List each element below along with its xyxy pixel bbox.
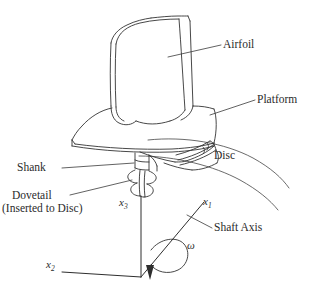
axis-label-x1: x1	[203, 195, 212, 210]
label-disc: Disc	[214, 149, 235, 162]
rotation-arrowhead	[146, 265, 154, 280]
axis-label-x2: x2	[46, 258, 55, 273]
label-shaft-axis: Shaft Axis	[214, 221, 262, 234]
coordinate-axes	[62, 196, 204, 277]
label-dovetail: Dovetail	[12, 189, 52, 202]
omega-symbol: ω	[187, 239, 195, 251]
rotation-arc	[146, 239, 188, 280]
shank	[135, 153, 157, 171]
disc-segment	[164, 141, 218, 170]
leader-dovetail	[70, 180, 132, 195]
platform	[72, 106, 216, 162]
turbine-blade-diagram: Airfoil Platform Shank Dovetail (Inserte…	[0, 0, 317, 289]
label-platform: Platform	[257, 93, 297, 106]
axis-label-x3: x3	[119, 196, 128, 211]
diagram-linework	[0, 0, 317, 289]
label-shank: Shank	[17, 161, 46, 174]
label-airfoil: Airfoil	[223, 38, 254, 51]
label-leaders	[62, 45, 255, 228]
label-dovetail-note: (Inserted to Disc)	[2, 202, 82, 215]
leader-shaft-axis	[187, 215, 212, 228]
leader-shank	[62, 163, 134, 168]
axis-x2-line	[62, 272, 141, 277]
leader-airfoil	[168, 45, 221, 57]
leader-platform	[210, 100, 255, 115]
dovetail-root	[128, 170, 156, 197]
airfoil-blade	[110, 16, 193, 125]
